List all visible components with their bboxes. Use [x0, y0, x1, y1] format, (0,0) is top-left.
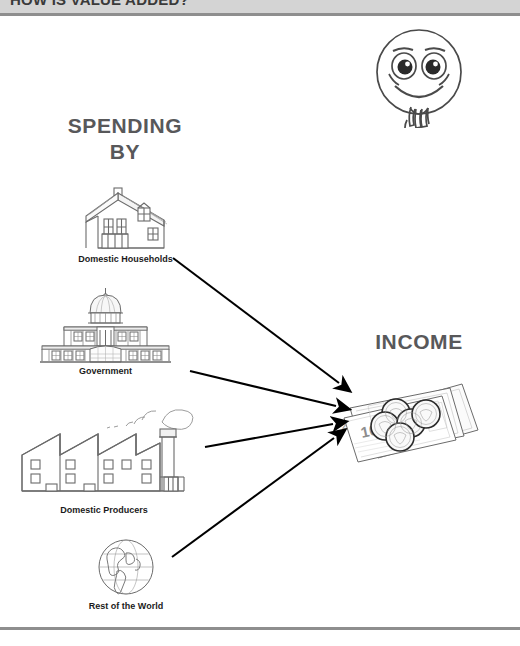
arrow-government-to-income [190, 371, 336, 406]
spending-by-heading: SPENDING BY [55, 113, 195, 164]
spending-heading-line-1: SPENDING [55, 113, 195, 139]
capitol-building-icon [28, 286, 183, 364]
diagram-page: HOW IS VALUE ADDED? [0, 0, 520, 646]
arrow-producers-to-income [205, 424, 333, 447]
money-banknotes-coins-icon: 10 2 [338, 378, 486, 468]
source-domestic-households: Domestic Households [68, 186, 183, 264]
house-icon [68, 186, 183, 252]
thinking-face [367, 24, 471, 128]
source-label-domestic-producers: Domestic Producers [14, 505, 194, 515]
source-domestic-producers: Domestic Producers [14, 398, 194, 515]
source-label-domestic-households: Domestic Households [68, 254, 183, 264]
source-label-government: Government [28, 366, 183, 376]
source-rest-of-the-world: Rest of the World [82, 537, 170, 611]
income-heading: INCOME [364, 329, 474, 355]
source-label-rest-of-the-world: Rest of the World [82, 601, 170, 611]
spending-heading-line-2: BY [55, 139, 195, 165]
header-divider [0, 13, 520, 16]
source-government: Government [28, 286, 183, 376]
target-income: 10 2 [338, 378, 486, 468]
footer-divider [0, 627, 520, 630]
arrow-households-to-income [173, 258, 339, 383]
factory-icon [14, 398, 194, 503]
globe-icon [82, 537, 170, 599]
header-band: HOW IS VALUE ADDED? [0, 0, 520, 13]
thinking-face-icon [367, 24, 471, 128]
page-title: HOW IS VALUE ADDED? [10, 0, 189, 8]
arrow-world-to-income [172, 438, 334, 557]
